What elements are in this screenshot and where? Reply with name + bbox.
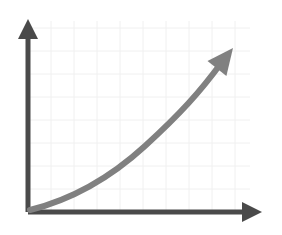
chart-background [0,0,282,235]
chart-canvas [0,0,282,235]
growth-chart-figure [0,0,282,235]
